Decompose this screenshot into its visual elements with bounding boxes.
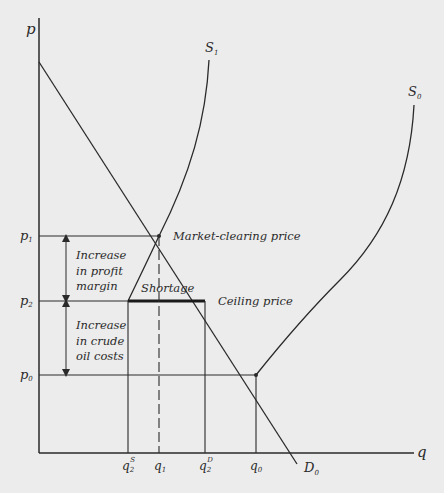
price-ceiling-diagram: p q D0 S1 S0 p1 p2 p0 q2S q1 q2D q0 Mark… [0, 0, 444, 493]
y-axis-label: p [26, 20, 36, 38]
q2d-label: q2D [199, 456, 213, 474]
d0-label: D0 [303, 460, 319, 477]
x-axis-label: q [417, 443, 427, 461]
p2-label: p2 [20, 293, 33, 309]
q1-label: q1 [154, 459, 166, 474]
profit-margin-label: Increase in profit margin [75, 248, 130, 293]
shortage-label: Shortage [141, 281, 195, 295]
market-clearing-point [157, 234, 161, 238]
s1-label: S1 [205, 40, 218, 57]
crude-oil-costs-label: Increase in crude oil costs [75, 318, 130, 363]
original-equilibrium-point [254, 373, 258, 377]
demand-curve-d0 [39, 62, 297, 464]
p0-label: p0 [20, 367, 33, 383]
market-clearing-price-label: Market-clearing price [172, 229, 301, 243]
q0-label: q0 [250, 459, 263, 474]
ceiling-price-label: Ceiling price [218, 294, 293, 308]
q2s-label: q2S [122, 456, 135, 474]
p1-label: p1 [20, 228, 33, 244]
s0-label: S0 [408, 84, 422, 101]
